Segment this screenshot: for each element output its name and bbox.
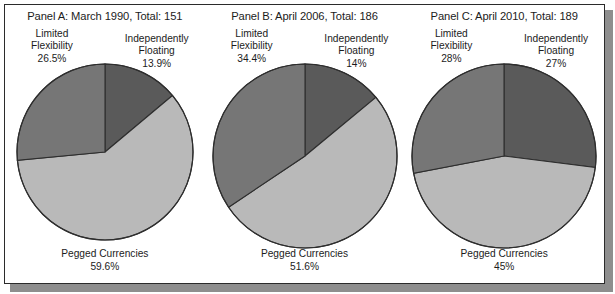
pie-slice-limited-flexibility[interactable] [412,64,504,173]
panel-a-label-limited-flexibility: LimitedFlexibility26.5% [9,28,95,65]
pie-slice-pegged-currencies[interactable] [414,156,596,248]
panel-a-pie [5,62,205,242]
panel-b-label-limited-flexibility: LimitedFlexibility34.4% [209,28,295,65]
pie-svg [211,62,399,250]
panel-c-pie [404,62,604,250]
panel-b-pie [205,62,405,250]
panel-a-label-pegged-currencies: Pegged Currencies59.6% [5,248,205,273]
panel-c-label-pegged-currencies: Pegged Currencies45% [404,248,604,273]
pie-slice-independently-floating[interactable] [504,64,596,168]
panel-c: Panel C: April 2010, Total: 189 LimitedF… [404,5,604,283]
pie-svg [15,62,195,242]
panel-a: Panel A: March 1990, Total: 151 LimitedF… [5,5,205,283]
panel-c-title: Panel C: April 2010, Total: 189 [404,10,604,22]
pie-slice-limited-flexibility[interactable] [17,64,105,160]
panel-b-title: Panel B: April 2006, Total: 186 [205,10,405,22]
pie-svg [410,62,598,250]
panel-c-label-limited-flexibility: LimitedFlexibility28% [408,28,494,65]
panel-b: Panel B: April 2006, Total: 186 LimitedF… [205,5,405,283]
figure-frame: Panel A: March 1990, Total: 151 LimitedF… [4,4,605,284]
figure-root: Panel A: March 1990, Total: 151 LimitedF… [0,0,615,294]
panel-container: Panel A: March 1990, Total: 151 LimitedF… [5,5,604,283]
panel-b-label-pegged-currencies: Pegged Currencies51.6% [205,248,405,273]
panel-a-title: Panel A: March 1990, Total: 151 [5,10,205,22]
